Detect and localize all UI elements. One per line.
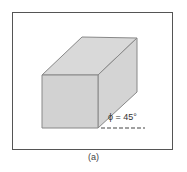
cube-diagram <box>0 0 187 172</box>
figure-caption: (a) <box>0 152 187 162</box>
angle-label: ϕ = 45° <box>108 112 137 122</box>
cube-front-face <box>42 75 98 128</box>
